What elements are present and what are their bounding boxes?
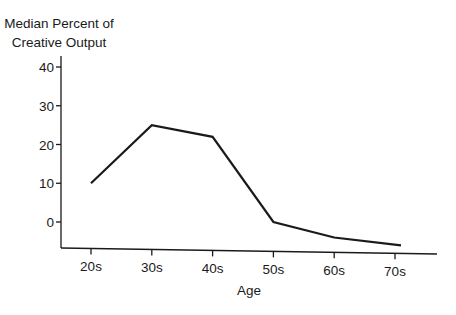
y-tick-label: 30 xyxy=(39,99,54,114)
x-tick-label: 30s xyxy=(141,260,163,275)
axes xyxy=(61,56,437,254)
x-tick-label: 40s xyxy=(202,261,224,276)
y-axis-ticks: 010203040 xyxy=(39,60,61,230)
y-tick-label: 10 xyxy=(39,176,54,191)
x-tick-label: 50s xyxy=(263,262,285,277)
x-tick-label: 20s xyxy=(80,259,102,274)
line-chart: 010203040 20s30s40s50s60s70s xyxy=(0,0,456,315)
x-axis-line xyxy=(61,248,437,254)
x-tick-label: 60s xyxy=(323,263,345,278)
data-line xyxy=(91,125,401,245)
y-tick-label: 40 xyxy=(39,60,54,75)
y-tick-label: 0 xyxy=(46,215,54,230)
x-axis-title: Age xyxy=(237,283,261,298)
y-tick-label: 20 xyxy=(39,138,54,153)
x-tick-label: 70s xyxy=(384,264,406,279)
